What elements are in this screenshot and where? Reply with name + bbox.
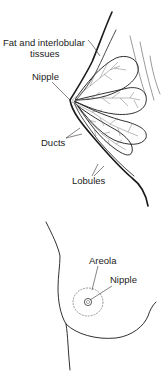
label-areola: Areola [89, 255, 117, 266]
lobe [76, 56, 138, 100]
chest-wall-line [150, 56, 160, 94]
label-nipple-top: Nipple [32, 71, 59, 82]
breast-anatomy-diagram: Fat and interlobular tissues Nipple Duct… [0, 0, 163, 384]
lobe [76, 88, 146, 115]
label-lobules: Lobules [72, 175, 106, 186]
leader-areola [92, 266, 98, 290]
leader-nipple-bottom [90, 286, 112, 300]
areola [73, 288, 103, 316]
ducts-network [72, 62, 140, 150]
chest-wall-line [140, 42, 154, 100]
label-ducts: Ducts [41, 137, 66, 148]
nipple-center [86, 300, 89, 303]
torso-contour [46, 222, 156, 338]
cross-section-panel: Fat and interlobular tissues Nipple Duct… [3, 12, 160, 206]
leader-nipple-top [52, 82, 70, 100]
leader-ducts [66, 128, 82, 138]
label-nipple-bottom: Nipple [110, 274, 137, 285]
label-fat-line1: Fat and interlobular [3, 37, 85, 48]
label-fat-line2: tissues [30, 48, 60, 59]
torso-lower-line [66, 324, 70, 370]
external-view-panel: Areola Nipple [46, 222, 156, 370]
